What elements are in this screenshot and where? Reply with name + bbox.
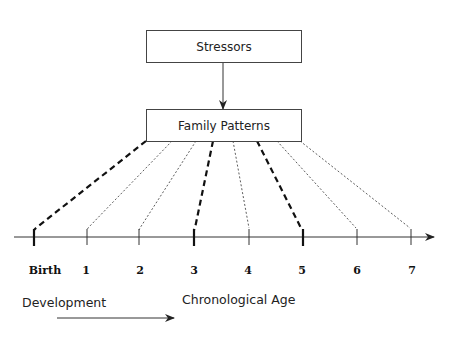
tick-label-3: 3 bbox=[190, 264, 198, 277]
tick-label-6: 6 bbox=[353, 264, 361, 277]
tick-label-2: 2 bbox=[136, 264, 144, 277]
development-caption: Development bbox=[22, 295, 106, 310]
connector-lines bbox=[34, 141, 410, 230]
tick-label-7: 7 bbox=[408, 264, 416, 277]
chronological-age-caption: Chronological Age bbox=[182, 292, 295, 307]
stressors-box: Stressors bbox=[146, 30, 302, 63]
connector-3 bbox=[194, 141, 213, 230]
family-patterns-box: Family Patterns bbox=[146, 109, 302, 142]
tick-label-4: 4 bbox=[244, 264, 252, 277]
stressors-label: Stressors bbox=[196, 40, 251, 54]
family-patterns-label: Family Patterns bbox=[178, 119, 270, 133]
connector-5 bbox=[257, 141, 303, 230]
connector-7 bbox=[300, 141, 410, 228]
tick-label-5: 5 bbox=[298, 264, 306, 277]
tick-label-birth: Birth bbox=[29, 264, 61, 277]
tick-label-1: 1 bbox=[82, 264, 90, 277]
connector-4 bbox=[233, 141, 249, 228]
connector-2 bbox=[139, 141, 196, 230]
